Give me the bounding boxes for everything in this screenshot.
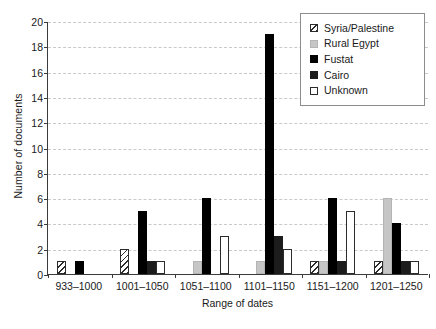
x-axis-title: Range of dates	[47, 297, 428, 309]
x-tick-label: 933–1000	[55, 280, 102, 292]
y-tick-label: 14	[31, 92, 43, 104]
x-tick-label: 1101–1150	[244, 280, 295, 292]
x-tick-mark	[48, 274, 49, 278]
x-tick-label: 1051–1100	[180, 280, 232, 292]
legend-swatch-icon	[310, 24, 318, 32]
legend-swatch-icon	[310, 40, 318, 48]
bar	[75, 261, 84, 274]
bar	[220, 236, 229, 274]
x-tick-label: 1001–1050	[116, 280, 169, 292]
y-tick-label: 16	[31, 67, 43, 79]
legend-item[interactable]: Rural Egypt	[301, 36, 424, 52]
bar	[328, 198, 337, 274]
y-tick-label: 8	[37, 168, 43, 180]
bar	[401, 261, 410, 274]
y-tick-label: 10	[31, 143, 43, 155]
bar	[310, 261, 319, 274]
legend-item[interactable]: Unknown	[301, 83, 424, 99]
x-tick-label: 1151–1200	[307, 280, 359, 292]
legend-item-label: Rural Egypt	[324, 38, 379, 49]
bar	[120, 249, 129, 274]
y-tick-label: 18	[31, 41, 43, 53]
y-tick-label: 0	[37, 269, 43, 281]
y-tick-label: 20	[31, 16, 43, 28]
bar	[57, 261, 66, 274]
bar-chart: Number of documents 02468101214161820 93…	[0, 0, 436, 329]
bar	[274, 236, 283, 274]
legend-item-label: Fustat	[324, 54, 353, 65]
x-tick-mark	[239, 274, 240, 278]
y-tick-label: 12	[31, 117, 43, 129]
bar	[374, 261, 383, 274]
bar-group	[238, 22, 301, 274]
bar	[138, 211, 147, 274]
legend-item-label: Unknown	[324, 85, 368, 96]
legend-item[interactable]: Fustat	[301, 51, 424, 67]
bar	[202, 198, 211, 274]
x-tick-label: 1201–1250	[370, 280, 423, 292]
legend-item[interactable]: Cairo	[301, 67, 424, 83]
bar	[256, 261, 265, 274]
x-tick-mark	[175, 274, 176, 278]
bar	[383, 198, 392, 274]
bar-group	[175, 22, 238, 274]
y-tick-label: 6	[37, 193, 43, 205]
bar	[147, 261, 156, 274]
x-tick-mark	[366, 274, 367, 278]
legend-swatch-icon	[310, 55, 318, 63]
bar	[283, 249, 292, 274]
legend-swatch-icon	[310, 71, 318, 79]
legend-item-label: Cairo	[324, 70, 349, 81]
legend-item[interactable]: Syria/Palestine	[301, 20, 424, 36]
bar-group	[48, 22, 111, 274]
y-axis-title: Number of documents	[12, 46, 24, 246]
bar	[319, 261, 328, 274]
bar	[337, 261, 346, 274]
bar	[410, 261, 419, 274]
bar-group	[111, 22, 174, 274]
legend: Syria/PalestineRural EgyptFustatCairoUnk…	[300, 13, 425, 106]
legend-item-label: Syria/Palestine	[324, 23, 394, 34]
x-tick-mark	[112, 274, 113, 278]
bar	[193, 261, 202, 274]
x-tick-mark	[302, 274, 303, 278]
bar	[156, 261, 165, 274]
bar	[392, 223, 401, 274]
bar	[346, 211, 355, 274]
legend-swatch-icon	[310, 87, 318, 95]
y-tick-label: 2	[37, 244, 43, 256]
y-tick-label: 4	[37, 218, 43, 230]
x-tick-mark	[429, 274, 430, 278]
bar	[265, 34, 274, 274]
